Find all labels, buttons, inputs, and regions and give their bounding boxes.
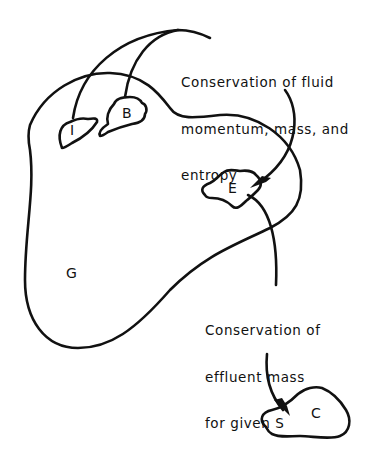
- region-i-label: I: [70, 123, 74, 138]
- annotation-fluid-line2: momentum, mass, and: [181, 122, 349, 138]
- region-b-label: B: [122, 106, 132, 121]
- annotation-fluid-conservation: Conservation of fluid momentum, mass, an…: [181, 44, 349, 215]
- annotation-effluent-line2: effluent mass: [205, 370, 321, 386]
- annotation-fluid-line3: entropy: [181, 168, 349, 184]
- diagram-canvas: I B E G C Conservation of fluid momentum…: [0, 0, 378, 462]
- annotation-effluent-line1: Conservation of: [205, 323, 321, 339]
- annotation-effluent-line3: for given S: [205, 416, 321, 432]
- annotation-effluent-conservation: Conservation of effluent mass for given …: [205, 292, 321, 462]
- annotation-fluid-line1: Conservation of fluid: [181, 75, 349, 91]
- region-g-label: G: [66, 266, 77, 281]
- region-i-outline: [60, 118, 98, 148]
